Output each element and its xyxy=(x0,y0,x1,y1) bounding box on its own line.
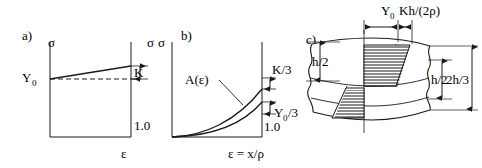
panel-b-x-tick-label: 1.0 xyxy=(264,119,280,134)
panel-a-tag: a) xyxy=(22,28,32,43)
panel-a-yield-label-main: Y xyxy=(22,70,32,85)
figure-container: a) σ Y 0 K σ 1.0 ε b) σ xyxy=(0,0,482,168)
panel-a-right-axis-label: σ xyxy=(147,35,154,50)
panel-c-top-dim-right-label: Kh/(2ρ) xyxy=(399,3,440,18)
panel-b-y03-label-tail: /3 xyxy=(288,105,298,120)
panel-b-curve-label: A(ε) xyxy=(185,72,209,87)
panel-b-x-axis-label: ε = x/ρ xyxy=(228,146,264,161)
panel-b-y-axis-label: σ xyxy=(158,35,165,50)
panel-a-x-tick-label: 1.0 xyxy=(134,118,150,133)
panel-a-y-axis-label: σ xyxy=(48,35,55,50)
panel-c-right-outer-label: 2h/3 xyxy=(446,72,469,87)
panel-a-x-axis-label: ε xyxy=(121,146,127,161)
stress-distribution-figure: a) σ Y 0 K σ 1.0 ε b) σ xyxy=(0,0,482,168)
panel-b-k3-label: K/3 xyxy=(272,62,292,77)
panel-a-k-label: K xyxy=(134,65,144,80)
panel-b-tag: b) xyxy=(181,28,192,43)
panel-a-yield-label-sub: 0 xyxy=(32,78,37,88)
panel-c-left-dim-label: h/2 xyxy=(312,54,329,69)
panel-c-top-dim-left-sub: 0 xyxy=(390,11,395,21)
